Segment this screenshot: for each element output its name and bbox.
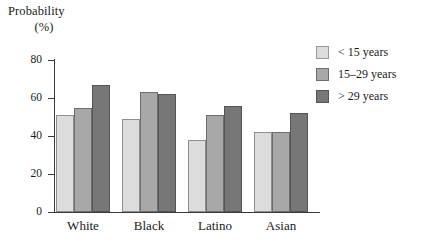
y-axis-title-unit: (%) bbox=[8, 20, 80, 35]
legend-label: < 15 years bbox=[338, 44, 388, 61]
y-tick-label: 0 bbox=[8, 206, 42, 217]
legend-swatch-icon bbox=[316, 90, 329, 103]
bar bbox=[158, 94, 176, 212]
bar bbox=[254, 132, 272, 212]
y-tick-mark bbox=[48, 212, 55, 213]
legend-label: 15–29 years bbox=[338, 66, 396, 83]
bar bbox=[74, 108, 92, 213]
bar bbox=[56, 115, 74, 212]
bar bbox=[290, 113, 308, 212]
bar bbox=[224, 106, 242, 212]
bar-chart: Probability (%) 020406080 WhiteBlackLati… bbox=[0, 0, 424, 248]
y-axis-title: Probability (%) bbox=[8, 4, 80, 35]
bar bbox=[272, 132, 290, 212]
bar bbox=[122, 119, 140, 212]
x-axis-label-asian: Asian bbox=[231, 218, 331, 233]
y-tick-label: 80 bbox=[8, 54, 42, 65]
y-tick-label: 20 bbox=[8, 168, 42, 179]
plot-area bbox=[54, 60, 318, 212]
x-axis-line bbox=[54, 212, 320, 213]
y-tick-label: 60 bbox=[8, 92, 42, 103]
bar bbox=[92, 85, 110, 212]
y-axis-title-main: Probability bbox=[8, 4, 65, 18]
bar-group bbox=[122, 60, 176, 212]
bar bbox=[140, 92, 158, 212]
bar bbox=[188, 140, 206, 212]
bar-group bbox=[56, 60, 110, 212]
legend-swatch-icon bbox=[316, 68, 329, 81]
y-tick-label: 40 bbox=[8, 130, 42, 141]
bar-group bbox=[254, 60, 308, 212]
legend-label: > 29 years bbox=[338, 88, 388, 105]
bar bbox=[206, 115, 224, 212]
bar-group bbox=[188, 60, 242, 212]
legend-swatch-icon bbox=[316, 46, 329, 59]
